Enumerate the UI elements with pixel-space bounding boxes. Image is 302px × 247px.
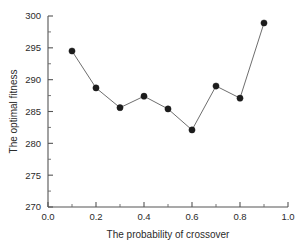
y-axis-title: The optimal fitness: [8, 70, 19, 154]
data-point-marker: [261, 20, 267, 26]
data-point-marker: [213, 83, 219, 89]
y-tick-label: 280: [25, 138, 41, 149]
series-group: [69, 20, 267, 133]
x-tick-label: 0.8: [233, 211, 246, 222]
line-chart: 0.00.20.40.60.81.0270275280285290295300T…: [0, 0, 302, 247]
data-point-marker: [165, 106, 171, 112]
series-line: [72, 23, 264, 130]
y-tick-label: 295: [25, 42, 41, 53]
x-tick-label: 0.4: [137, 211, 150, 222]
data-point-marker: [69, 48, 75, 54]
data-point-marker: [141, 93, 147, 99]
x-tick-label: 0.2: [89, 211, 102, 222]
data-point-marker: [93, 85, 99, 91]
y-tick-label: 270: [25, 201, 41, 212]
y-tick-label: 300: [25, 10, 41, 21]
x-tick-label: 0.0: [41, 211, 54, 222]
y-tick-label: 275: [25, 170, 41, 181]
chart-figure: 0.00.20.40.60.81.0270275280285290295300T…: [0, 0, 302, 247]
x-axis-title: The probability of crossover: [107, 229, 231, 240]
labels-group: 0.00.20.40.60.81.0270275280285290295300T…: [8, 10, 295, 240]
data-point-marker: [237, 95, 243, 101]
x-tick-label: 0.6: [185, 211, 198, 222]
y-tick-label: 285: [25, 106, 41, 117]
data-point-marker: [189, 127, 195, 133]
y-tick-label: 290: [25, 74, 41, 85]
data-point-marker: [117, 105, 123, 111]
x-tick-label: 1.0: [281, 211, 294, 222]
